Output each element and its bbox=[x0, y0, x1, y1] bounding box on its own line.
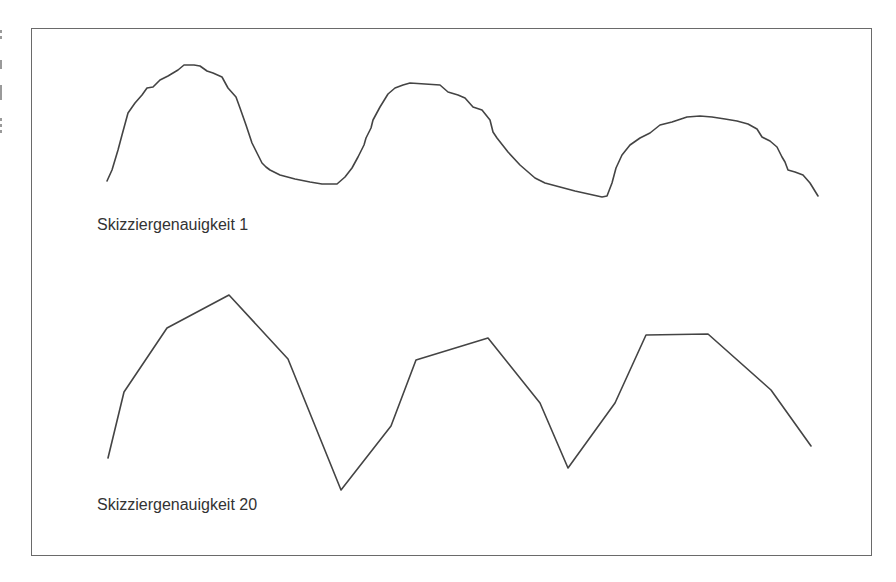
label-precision-1: Skizziergenauigkeit 1 bbox=[97, 216, 248, 234]
sketch-curve-precision-1 bbox=[107, 65, 818, 197]
sketch-curves bbox=[0, 0, 896, 582]
sketch-curve-precision-20 bbox=[108, 295, 811, 490]
label-precision-20: Skizziergenauigkeit 20 bbox=[97, 496, 257, 514]
